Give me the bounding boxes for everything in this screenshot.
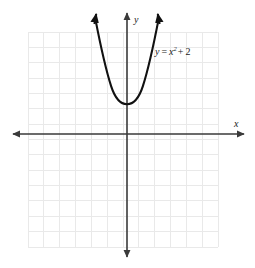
coordinate-plane-svg <box>0 0 255 268</box>
equation-lhs: y <box>155 46 159 57</box>
grid-lines <box>28 32 218 247</box>
equation-exponent: 2 <box>174 45 177 52</box>
x-axis-label: x <box>234 119 238 129</box>
graph-figure: x y y=x2+2 <box>0 0 255 268</box>
equation-plus: + <box>178 46 184 57</box>
equation-equals: = <box>161 46 167 57</box>
equation-annotation: y=x2+2 <box>155 46 190 57</box>
y-axis-label: y <box>134 15 138 25</box>
equation-constant: 2 <box>185 46 190 57</box>
